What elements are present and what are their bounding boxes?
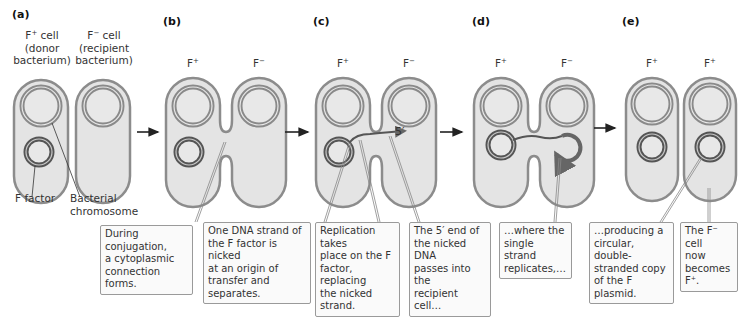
panel-e-cells (626, 78, 736, 222)
recipient-cell-label: F− cell (recipient bacterium) (73, 29, 135, 67)
callout-conjugation: During conjugation, a cytoplasmic connec… (100, 225, 193, 295)
panel-c-cells (316, 78, 436, 222)
panel-e-right-sign: F+ (697, 57, 723, 70)
panel-b-recipient-sign: F− (246, 57, 272, 70)
panel-e-left-sign: F+ (639, 57, 665, 70)
five-prime-label: 5′ (395, 125, 405, 138)
panel-c-recipient-sign: F− (396, 57, 422, 70)
callout-nicked-strand: One DNA strand of the F factor is nicked… (203, 222, 311, 304)
panel-a-label: (a) (12, 8, 29, 21)
callout-replication: Replication takes place on the F factor,… (315, 222, 400, 317)
callout-single-strand: …where the single strand replicates,… (499, 222, 572, 279)
panel-d-donor-sign: F+ (488, 57, 514, 70)
panel-a-cells (14, 80, 130, 203)
panel-b-label: (b) (163, 15, 181, 28)
donor-cell-label: F+ cell (donor bacterium) (12, 29, 72, 67)
panel-d-recipient-sign: F− (554, 57, 580, 70)
callout-five-prime-end: The 5′ end of the nicked DNA passes into… (409, 222, 491, 317)
panel-b-cells (166, 78, 286, 222)
panel-e-label: (e) (622, 15, 640, 28)
bacterial-chromosome-label: Bacterial chromosome (70, 192, 138, 218)
panel-d-cells (474, 78, 594, 222)
panel-d-label: (d) (472, 15, 490, 28)
f-factor-label: F factor (15, 192, 55, 205)
panel-c-label: (c) (313, 15, 330, 28)
panel-c-donor-sign: F+ (330, 57, 356, 70)
panel-b-donor-sign: F+ (180, 57, 206, 70)
callout-double-stranded-copy: …producing a circular, double- stranded … (589, 222, 674, 304)
callout-becomes-f-plus: The F⁻ cell now becomes F⁺. (680, 222, 738, 292)
